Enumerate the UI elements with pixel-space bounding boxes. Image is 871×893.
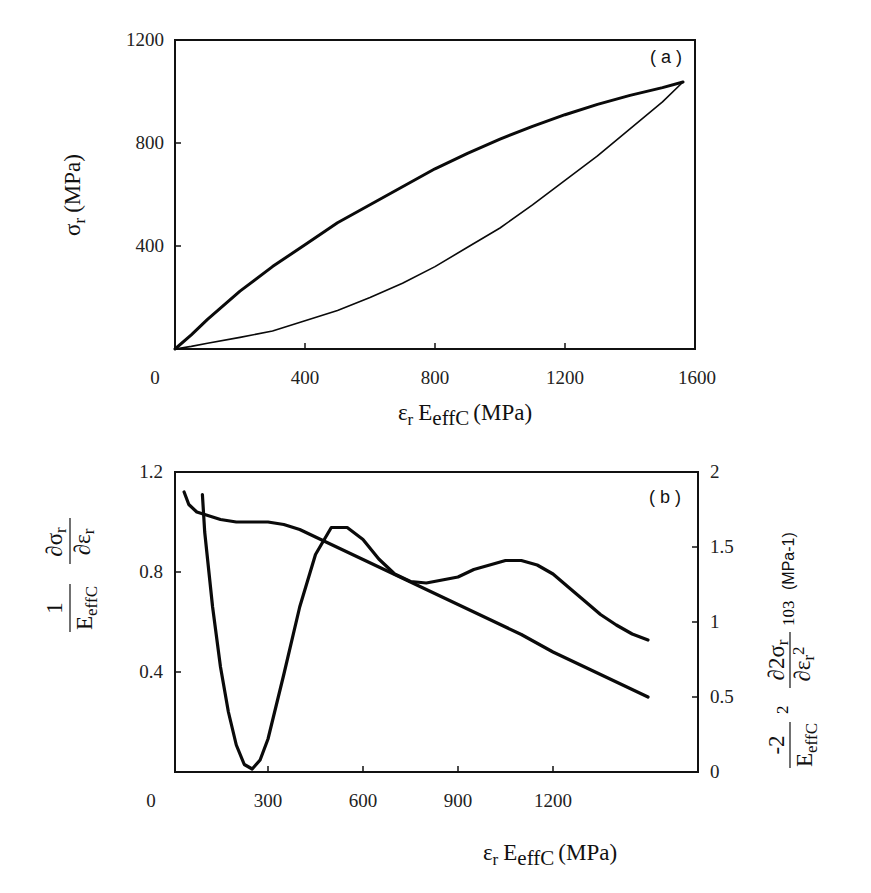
y-tick-label: 0.8	[139, 561, 163, 582]
panel-b-left-y-axis-title: 1 EeffC ∂σr ∂εr	[42, 518, 101, 632]
panel-b-frame	[175, 472, 698, 772]
y-tick-label: 400	[136, 235, 165, 256]
figure: 0 400 800 1200 1600 400 800 1200 ( a ) ε…	[0, 0, 871, 893]
panel-b-x-tick-labels: 0 300 600 900 1200	[146, 790, 572, 811]
svg-text:2: 2	[773, 706, 792, 715]
panel-b-right-y-axis-title: -2 EeffC 2 ∂2σr ∂εr2 103 (MPa-1)	[764, 532, 821, 768]
x-tick-label: 0	[150, 367, 160, 388]
panel-a-y-tick-labels: 400 800 1200	[126, 29, 164, 256]
y-tick-label: 1200	[126, 29, 164, 50]
panel-b-left-y-tick-labels: 0.4 0.8 1.2	[139, 461, 163, 682]
y2-tick-label: 0.5	[710, 686, 734, 707]
y2-tick-label: 2	[710, 461, 720, 482]
svg-text:∂σr: ∂σr	[42, 527, 70, 557]
x-tick-label: 400	[291, 367, 320, 388]
x-tick-label: 300	[254, 790, 283, 811]
x-tick-label: 1600	[678, 367, 716, 388]
y-tick-label: 0.4	[139, 661, 163, 682]
x-tick-label: 900	[444, 790, 473, 811]
y2-tick-label: 1.5	[710, 536, 734, 557]
unloading-curve	[175, 82, 683, 349]
y2-tick-label: 1	[710, 611, 720, 632]
x-tick-label: 600	[349, 790, 378, 811]
x-tick-label: 0	[146, 790, 156, 811]
loading-curve	[175, 82, 683, 349]
svg-text:103: 103	[779, 601, 798, 627]
panel-b-label: ( b )	[649, 487, 681, 507]
svg-text:EeffC: EeffC	[792, 723, 821, 767]
svg-text:EeffC: EeffC	[72, 586, 101, 630]
svg-text:∂εr: ∂εr	[70, 528, 98, 555]
x-tick-label: 1200	[534, 790, 572, 811]
second-derivative-curve	[202, 495, 648, 770]
panel-a-x-axis-title: εrEeffC(MPa)	[398, 400, 532, 430]
svg-text:(MPa-1): (MPa-1)	[780, 532, 797, 590]
panel-b: 0 300 600 900 1200 0.4 0.8 1.2 0 0.5 1 1…	[42, 461, 821, 870]
panel-a: 0 400 800 1200 1600 400 800 1200 ( a ) ε…	[60, 29, 716, 430]
y-tick-label: 1.2	[139, 461, 163, 482]
y2-tick-label: 0	[710, 761, 720, 782]
panel-a-x-tick-labels: 0 400 800 1200 1600	[150, 367, 716, 388]
svg-text:1: 1	[42, 602, 67, 614]
svg-text:∂2σr: ∂2σr	[764, 639, 792, 680]
panel-a-y-axis-title: σr(MPa)	[60, 154, 89, 236]
panel-a-label: ( a )	[650, 47, 682, 67]
x-tick-label: 1200	[546, 367, 584, 388]
svg-text:∂εr2: ∂εr2	[789, 646, 818, 681]
panel-a-frame	[175, 40, 695, 349]
x-tick-label: 800	[421, 367, 450, 388]
panel-b-x-axis-title: εrEeffC(MPa)	[483, 840, 617, 870]
panel-b-right-y-tick-labels: 0 0.5 1 1.5 2	[710, 461, 734, 782]
svg-text:-2: -2	[764, 735, 789, 754]
y-tick-label: 800	[136, 132, 165, 153]
